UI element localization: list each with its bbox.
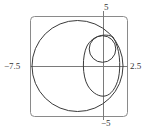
y-max-label: 5 [104, 3, 109, 12]
x-min-label: −7.5 [4, 62, 20, 71]
small-circle-curve [89, 36, 116, 63]
x-max-label: 2.5 [130, 62, 141, 71]
polar-graph-figure: 5 −5 −7.5 2.5 [0, 0, 144, 132]
y-min-label: −5 [101, 119, 111, 128]
oval-loop-curve [83, 35, 119, 96]
graph-canvas [0, 0, 144, 132]
